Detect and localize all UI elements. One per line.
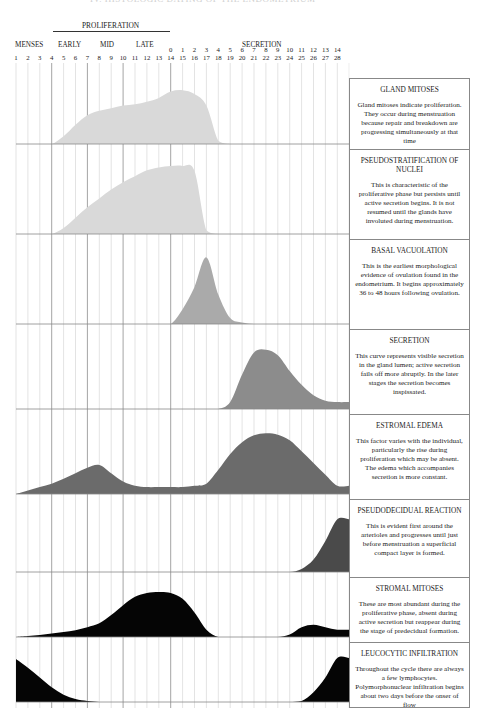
panel-body-text: This factor varies with the individual, …: [354, 437, 465, 482]
panel-title: SECRETION: [354, 336, 465, 345]
panel-description-box: ESTROMAL EDEMAThis factor varies with th…: [349, 415, 470, 500]
panel-title: PSEUDODECIDUAL REACTION: [354, 506, 465, 515]
panel-body-text: This is the earliest morphological evide…: [354, 262, 465, 298]
panel-title: BASAL VACUOLATION: [354, 246, 465, 255]
panel-body-text: Gland mitoses indicate proliferation. Th…: [354, 101, 465, 146]
panel-body-text: Throughout the cycle there are always a …: [354, 665, 465, 708]
panel-description-box: SECRETIONThis curve represents visible s…: [349, 330, 470, 415]
panel-title: LEUCOCYTIC INFILTRATION: [354, 649, 465, 658]
panel-description-box: PSEUDODECIDUAL REACTIONThis is evident f…: [349, 500, 470, 578]
panel-title: GLAND MITOSES: [354, 85, 465, 94]
panel-title: PSEUDOSTRATIFICATION OF NUCLEI: [354, 156, 465, 174]
series-area-gland-mitoses: [16, 90, 349, 144]
panel-body-text: These are most abundant during the proli…: [354, 600, 465, 636]
panel-title: STROMAL MITOSES: [354, 584, 465, 593]
panel-body-text: This curve represents visible secretion …: [354, 352, 465, 397]
series-area-pseudostratification-of-nuclei: [16, 165, 349, 234]
panel-title: ESTROMAL EDEMA: [354, 421, 465, 430]
panel-description-box: PSEUDOSTRATIFICATION OF NUCLEIThis is ch…: [349, 150, 470, 240]
panel-description-box: BASAL VACUOLATIONThis is the earliest mo…: [349, 240, 470, 330]
panel-body-text: This is evident first around the arterio…: [354, 522, 465, 558]
panel-body-text: This is characteristic of the proliferat…: [354, 181, 465, 226]
panel-description-box: GLAND MITOSESGland mitoses indicate prol…: [349, 78, 470, 150]
panel-description-box: LEUCOCYTIC INFILTRATIONThroughout the cy…: [349, 643, 470, 708]
panel-description-box: STROMAL MITOSESThese are most abundant d…: [349, 578, 470, 643]
